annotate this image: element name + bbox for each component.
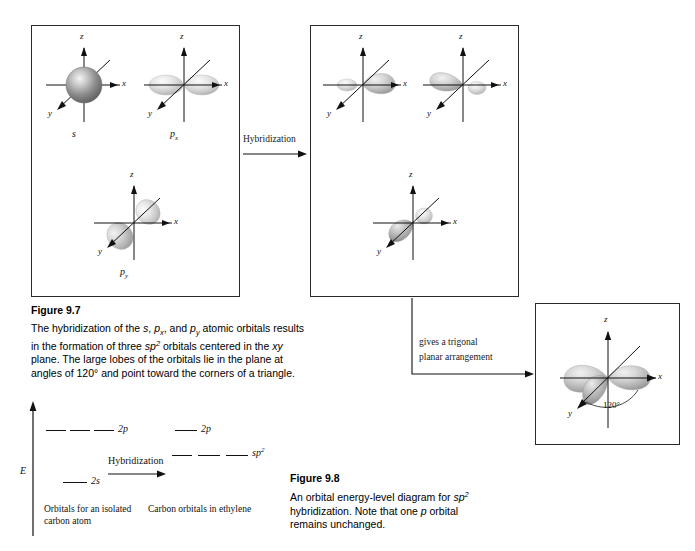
axis-label-x: x — [503, 79, 507, 88]
axis-label-x: x — [224, 79, 228, 88]
axis-label-z: z — [409, 170, 413, 179]
axis-label-x: x — [403, 79, 407, 88]
axis-label-y: y — [377, 247, 381, 256]
caption-text: , and — [164, 322, 190, 334]
caption-text: point toward the corners of a triangle. — [122, 367, 295, 379]
trigonal-connector-label-line1: gives a trigonal — [419, 336, 493, 349]
axis-label-z: z — [180, 32, 184, 41]
level-line-sp2-2 — [198, 455, 220, 456]
orbital-label-px: px — [170, 129, 178, 142]
energy-hybridization-arrow-icon — [108, 468, 170, 480]
orbital-diagram-s: z x y s — [40, 36, 136, 122]
level-label-2p-left: 2p — [118, 424, 128, 434]
caption-text: the formation of three — [42, 340, 145, 352]
orbital-label-s: s — [72, 129, 76, 139]
energy-left-caption-line2: carbon atom — [44, 515, 91, 527]
level-label-2p-right: 2p — [201, 424, 211, 434]
level-label-2s: 2s — [91, 476, 100, 486]
axis-label-y: y — [98, 247, 102, 256]
orbital-diagram-trigonal: z x y 120° — [550, 316, 670, 432]
orbital-diagram-sp2-downleft: z x y — [369, 174, 465, 260]
trigonal-connector-label-line2: planar arrangement — [419, 351, 493, 364]
axis-label-y: y — [148, 109, 152, 118]
energy-axis-label: E — [20, 466, 26, 476]
axis-label-z: z — [459, 32, 463, 41]
axis-label-y: y — [327, 109, 331, 118]
level-line-2p-right — [175, 430, 197, 431]
axis-label-x: x — [658, 372, 662, 381]
energy-hybridization-label: Hybridization — [108, 455, 164, 466]
axis-label-y: y — [568, 409, 572, 418]
angle-label-120: 120° — [603, 400, 620, 410]
caption-text: plane. The — [31, 353, 80, 365]
orbital-diagram-sp2-upleft: z x y — [419, 36, 515, 122]
level-line-2p-left-2 — [70, 430, 90, 431]
atomic-orbitals-panel: z x y s z x y px — [31, 25, 240, 297]
caption-italic-xy: xy — [272, 340, 283, 352]
axis-label-z: z — [130, 170, 134, 179]
level-line-sp2-3 — [226, 455, 248, 456]
caption-italic-p: p — [421, 505, 427, 517]
orbital-diagram-px: z x y px — [140, 36, 236, 122]
level-line-2s — [63, 482, 87, 483]
caption-italic-py: py — [190, 322, 200, 334]
level-line-sp2-1 — [172, 455, 192, 456]
caption-text: The hybridization of the — [31, 322, 143, 334]
axis-label-x: x — [453, 217, 457, 226]
axis-label-x: x — [174, 217, 178, 226]
hybridization-arrow-icon — [243, 147, 309, 163]
orbital-label-py: py — [120, 267, 128, 280]
axis-label-z: z — [359, 32, 363, 41]
orbital-diagram-py: z x y py — [90, 174, 186, 260]
hybridization-arrow-label: Hybridization — [243, 133, 296, 146]
level-line-2p-left-3 — [94, 430, 114, 431]
axis-label-y: y — [427, 109, 431, 118]
level-label-sp2: sp2 — [252, 448, 264, 458]
hybrid-orbitals-panel: z x y z x y z x — [310, 25, 519, 297]
figure-9-8-title: Figure 9.8 — [290, 472, 340, 484]
trigonal-planar-panel: z x y 120° — [535, 303, 680, 445]
axis-label-y: y — [48, 109, 52, 118]
caption-italic-px: px — [154, 322, 164, 334]
caption-text: An orbital energy-level diagram for — [290, 491, 451, 503]
figure-9-8-caption: An orbital energy-level diagram for sp2 … — [290, 491, 490, 532]
trigonal-connector-label: gives a trigonal planar arrangement — [419, 336, 493, 362]
figure-9-7-title: Figure 9.7 — [31, 304, 81, 316]
axis-label-x: x — [122, 79, 126, 88]
axis-label-z: z — [604, 315, 608, 324]
caption-text: hybridization. Note that one — [290, 505, 421, 517]
figure-9-7-caption: The hybridization of the s, px, and py a… — [31, 322, 307, 380]
energy-right-caption: Carbon orbitals in ethylene — [148, 503, 251, 515]
axis-label-z: z — [80, 32, 84, 41]
energy-level-diagram: E 2p 2s Hybridization 2p sp2 Orbitals fo… — [20, 398, 295, 538]
caption-italic-sp2: sp2 — [145, 340, 160, 352]
caption-text: orbitals centered in the — [160, 340, 272, 352]
level-line-2p-left-1 — [46, 430, 66, 431]
energy-left-caption-line1: Orbitals for an isolated — [44, 503, 131, 515]
caption-italic-sp2: sp2 — [453, 491, 468, 503]
orbital-diagram-sp2-right: z x y — [319, 36, 415, 122]
